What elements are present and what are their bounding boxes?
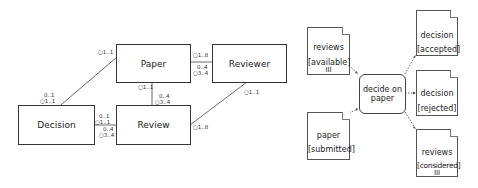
object-name: paper (308, 131, 349, 140)
collection-marker: III (308, 66, 349, 74)
object-name: decision (417, 31, 457, 40)
multiplicity-label: ○1..8 (193, 124, 208, 130)
class-reviewer-label: Reviewer (229, 59, 270, 69)
collection-marker: III (417, 169, 457, 177)
multiplicity-label: 0..1○1..1 (40, 92, 55, 104)
object-node-decision-rejected[interactable]: decision [rejected] (416, 70, 458, 116)
action-label-line2: paper (363, 94, 402, 103)
multiplicity-label: ○1..1 (138, 84, 153, 90)
multiplicity-label: 0..4○3..4 (99, 126, 114, 138)
object-node-reviews-available[interactable]: reviews [available] III (307, 27, 350, 75)
action-decide-on-paper[interactable]: decide onpaper (359, 74, 406, 114)
action-label-line1: decide on (363, 85, 402, 94)
object-name: decision (417, 89, 457, 98)
page-fold-icon (342, 27, 350, 35)
class-reviewer[interactable]: Reviewer (212, 44, 287, 83)
multiplicity-label: ○1..8 (193, 52, 208, 58)
page-fold-icon (342, 112, 350, 120)
multiplicity-label: ○1..1 (98, 49, 113, 55)
multiplicity-label: 0..1○1..1 (95, 113, 110, 125)
class-paper-label: Paper (141, 59, 167, 69)
page-fold-icon (450, 129, 458, 137)
page-fold-icon (450, 10, 458, 18)
class-paper[interactable]: Paper (116, 44, 191, 83)
class-review-label: Review (137, 120, 169, 130)
multiplicity-label: 0..4○3..4 (193, 64, 208, 76)
class-decision[interactable]: Decision (18, 105, 95, 145)
object-state: [rejected] (417, 104, 457, 113)
page-fold-icon (450, 70, 458, 78)
multiplicity-label: 0..4○3..4 (155, 93, 170, 105)
object-name: reviews (417, 148, 457, 157)
object-node-reviews-considered[interactable]: reviews [considered] III (416, 129, 458, 177)
object-name: reviews (308, 43, 349, 52)
object-state: [accepted] (417, 45, 457, 54)
object-node-paper-submitted[interactable]: paper [submitted] (307, 112, 350, 160)
object-state: [submitted] (308, 145, 349, 154)
class-review[interactable]: Review (116, 105, 191, 145)
connector-lines (0, 0, 478, 188)
object-node-decision-accepted[interactable]: decision [accepted] (416, 10, 458, 56)
multiplicity-label: ○1..1 (244, 89, 259, 95)
class-decision-label: Decision (37, 120, 75, 130)
